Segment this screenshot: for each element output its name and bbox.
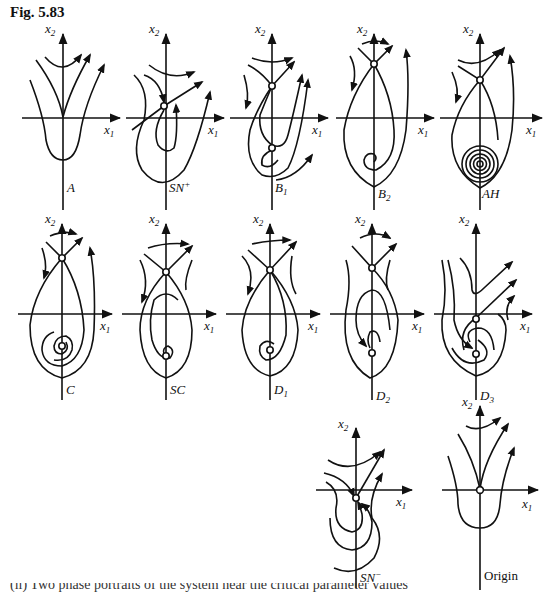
phase-portrait-C: x2 x1 C <box>18 210 124 400</box>
panel-label: A <box>66 180 75 195</box>
phase-portrait-D3: x2 x1 D3 <box>434 210 540 400</box>
svg-text:x2: x2 <box>458 211 470 228</box>
phase-portrait-D2: x2 x1 D2 <box>330 210 436 400</box>
phase-portrait-B2: x2 x1 B2 <box>332 20 438 210</box>
svg-text:x1: x1 <box>521 496 532 513</box>
svg-text:Origin: Origin <box>484 568 518 583</box>
svg-text:x1: x1 <box>203 318 214 335</box>
svg-text:x1: x1 <box>311 122 322 139</box>
svg-text:x2: x2 <box>354 211 366 228</box>
caption-text: (ii) Two phase portraits of the system n… <box>0 583 552 592</box>
svg-text:x1: x1 <box>307 318 318 335</box>
svg-text:x1: x1 <box>525 122 536 139</box>
phase-portrait-SN-minus: x2 x1 SN− <box>316 418 422 592</box>
svg-text:x2: x2 <box>148 211 160 228</box>
svg-text:B2: B2 <box>378 186 391 203</box>
svg-text:x2: x2 <box>148 21 160 38</box>
svg-text:x1: x1 <box>411 318 422 335</box>
svg-text:x2: x2 <box>462 21 474 38</box>
svg-text:D1: D1 <box>273 382 288 399</box>
svg-text:D2: D2 <box>375 388 390 405</box>
figure-title: Fig. 5.83 <box>10 4 65 21</box>
phase-portrait-SN-plus: x2 x1 SN+ <box>122 20 228 210</box>
svg-text:x1: x1 <box>103 122 114 139</box>
svg-text:x2: x2 <box>44 211 56 228</box>
phase-portrait-B1: x2 x1 B1 <box>226 20 332 210</box>
svg-text:C: C <box>66 382 75 397</box>
phase-portrait-SC: x2 x1 SC <box>122 210 228 400</box>
svg-text:x1: x1 <box>417 122 428 139</box>
svg-text:SC: SC <box>170 382 186 397</box>
svg-text:x2: x2 <box>337 416 349 433</box>
svg-text:B1: B1 <box>275 180 287 197</box>
svg-text:AH: AH <box>481 186 500 201</box>
phase-portrait-origin: x2 x1 Origin <box>438 400 544 590</box>
svg-text:x2: x2 <box>44 21 56 38</box>
caption-cut-line: (ii) Two phase portraits of the system n… <box>0 583 552 592</box>
phase-portrait-D1: x2 x1 D1 <box>226 210 332 400</box>
svg-text:x1: x1 <box>99 318 110 335</box>
phase-portrait-A: x2 x1 A <box>18 20 124 210</box>
phase-portrait-AH: x2 x1 AH <box>438 20 544 210</box>
svg-text:x2: x2 <box>356 21 368 38</box>
svg-text:x2: x2 <box>252 211 264 228</box>
svg-text:x1: x1 <box>519 318 530 335</box>
svg-text:x2: x2 <box>254 21 266 38</box>
svg-text:SN+: SN+ <box>169 179 190 195</box>
svg-text:x1: x1 <box>207 122 218 139</box>
svg-text:x1: x1 <box>395 494 406 511</box>
